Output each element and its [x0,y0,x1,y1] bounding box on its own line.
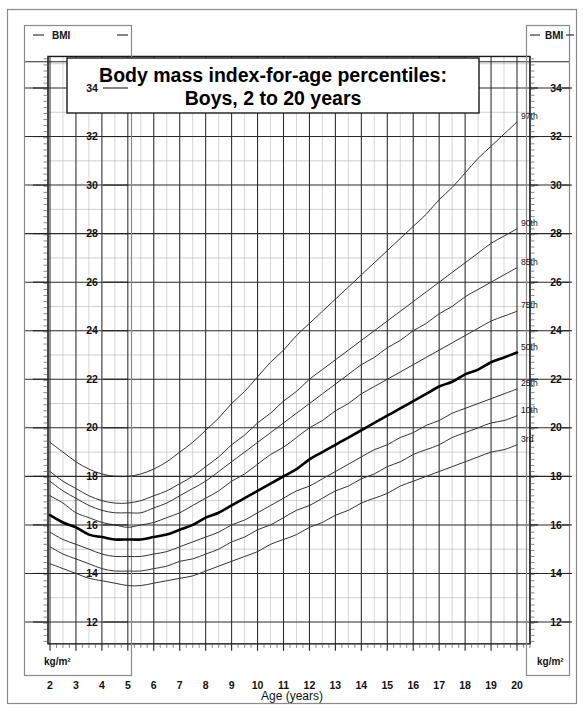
y-tick-label-right-18: 18 [550,470,562,482]
x-tick-label-20: 20 [511,679,523,691]
y-tick-label-right-28: 28 [550,227,562,239]
y-tick-label-left-28: 28 [86,227,98,239]
y-tick-label-right-32: 32 [550,130,562,142]
y-tick-label-right-24: 24 [550,324,562,336]
y-tick-label-left-22: 22 [86,373,98,385]
y-tick-label-right-22: 22 [550,373,562,385]
unit-label-bottom-right: kg/m² [537,656,564,667]
y-tick-label-right-20: 20 [550,421,562,433]
percentile-label-10th: 10th [521,405,538,415]
x-tick-label-6: 6 [151,679,157,691]
percentile-label-75th: 75th [521,300,538,310]
y-tick-label-left-20: 20 [86,421,98,433]
chart-title-line-1: Body mass index-for-age percentiles: [99,64,447,86]
x-tick-label-13: 13 [330,679,342,691]
x-tick-label-14: 14 [355,679,367,691]
unit-label-bottom-left: kg/m² [44,656,71,667]
percentile-label-90th: 90th [521,218,538,228]
chart-canvas: Body mass index-for-age percentiles:Boys… [0,0,584,712]
y-tick-label-right-16: 16 [550,519,562,531]
y-tick-label-left-14: 14 [86,567,98,579]
x-tick-label-5: 5 [125,679,131,691]
x-tick-label-8: 8 [203,679,209,691]
percentile-label-85th: 85th [521,257,538,267]
x-tick-label-17: 17 [433,679,445,691]
x-tick-label-9: 9 [229,679,235,691]
percentile-label-97th: 97th [521,111,538,121]
y-tick-label-left-30: 30 [86,179,98,191]
y-tick-label-left-16: 16 [86,519,98,531]
unit-label-top-right: BMI [545,30,564,41]
y-tick-label-left-34: 34 [86,82,98,94]
chart-title-line-2: Boys, 2 to 20 years [185,87,362,109]
y-tick-label-left-12: 12 [86,616,98,628]
x-tick-label-7: 7 [177,679,183,691]
y-tick-label-right-26: 26 [550,276,562,288]
y-tick-label-left-32: 32 [86,130,98,142]
x-tick-label-3: 3 [73,679,79,691]
y-tick-label-right-14: 14 [550,567,562,579]
x-tick-label-15: 15 [381,679,393,691]
y-tick-label-right-12: 12 [550,616,562,628]
y-tick-label-left-26: 26 [86,276,98,288]
x-tick-label-16: 16 [407,679,419,691]
x-tick-label-18: 18 [459,679,471,691]
y-tick-label-right-34: 34 [550,82,562,94]
percentile-label-50th: 50th [521,342,538,352]
y-tick-label-left-24: 24 [86,324,98,336]
y-tick-label-right-30: 30 [550,179,562,191]
percentile-label-3rd: 3rd [521,434,534,444]
bmi-growth-chart: Body mass index-for-age percentiles:Boys… [0,0,584,712]
x-tick-label-2: 2 [47,679,53,691]
x-axis-title: Age (years) [261,689,323,703]
x-tick-label-4: 4 [99,679,105,691]
percentile-label-25th: 25th [521,378,538,388]
x-tick-label-19: 19 [485,679,497,691]
y-tick-label-left-18: 18 [86,470,98,482]
unit-label-top-left: BMI [52,30,71,41]
